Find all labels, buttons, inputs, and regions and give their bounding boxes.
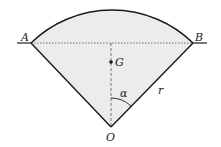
label-b: B — [194, 31, 203, 44]
sector-diagram: A B G α r O — [0, 0, 221, 147]
centroid-point — [109, 60, 113, 64]
label-r: r — [158, 84, 164, 97]
label-o: O — [106, 131, 115, 144]
label-a: A — [20, 31, 29, 44]
label-alpha: α — [120, 87, 128, 100]
label-g: G — [115, 56, 124, 69]
